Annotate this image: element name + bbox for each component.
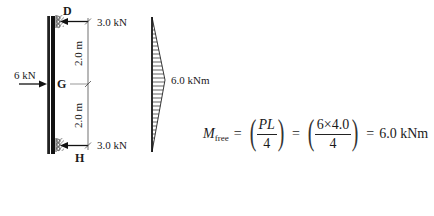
eq-frac1-denominator: 4 xyxy=(263,135,270,151)
eq-paren-close-2: ) xyxy=(352,114,359,150)
segment-top-length-label: 2.0 m xyxy=(73,41,84,66)
eq-frac2-denominator: 4 xyxy=(330,135,337,151)
segment-bottom-length-label: 2.0 m xyxy=(73,103,84,128)
eq-frac1-numerator: PL xyxy=(257,117,277,134)
eq-lhs-symbol: M xyxy=(203,126,215,142)
top-reaction-arrow-icon xyxy=(60,18,88,25)
eq-paren-open-1: ( xyxy=(249,114,256,150)
free-moment-equation: M free = ( PL 4 ) = ( 6×4.0 4 ) = 6.0 kN… xyxy=(203,114,428,154)
eq-fraction-2: 6×4.0 4 xyxy=(315,117,351,151)
node-label-g: G xyxy=(57,78,66,90)
moment-diagram xyxy=(152,17,165,152)
top-reaction-label: 3.0 kN xyxy=(97,17,127,28)
diagram-canvas: D 3.0 kN 6 kN G H 3.0 kN 2.0 m 2.0 m 6.0… xyxy=(0,0,434,216)
node-label-h: H xyxy=(75,152,84,164)
eq-frac2-numerator: 6×4.0 xyxy=(315,117,351,134)
bottom-reaction-arrow-icon xyxy=(60,142,88,149)
node-label-d: D xyxy=(63,5,72,17)
eq-paren-open-2: ( xyxy=(308,114,315,150)
eq-equals-3: = xyxy=(366,126,374,142)
eq-paren-close-1: ) xyxy=(278,114,285,150)
eq-equals-2: = xyxy=(292,126,300,142)
applied-load-arrow-icon xyxy=(19,81,47,88)
applied-load-label: 6 kN xyxy=(14,70,36,81)
bottom-reaction-label: 3.0 kN xyxy=(97,140,127,151)
moment-peak-label: 6.0 kNm xyxy=(171,75,210,86)
eq-fraction-1: PL 4 xyxy=(257,117,277,151)
eq-result: 6.0 kNm xyxy=(379,126,428,142)
eq-lhs-subscript: free xyxy=(215,133,229,143)
eq-equals-1: = xyxy=(234,126,242,142)
column xyxy=(48,16,56,154)
structure-drawing xyxy=(0,0,434,216)
